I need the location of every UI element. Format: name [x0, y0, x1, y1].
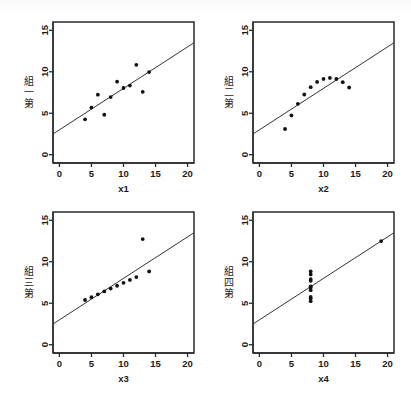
x-tick-label: 0 — [257, 168, 262, 179]
x-axis: 05101520 — [53, 353, 194, 369]
regression-line — [253, 233, 394, 324]
x-tick-label: 20 — [382, 168, 393, 179]
x-axis-title: x4 — [318, 373, 329, 384]
data-point — [122, 86, 126, 90]
data-point — [341, 80, 345, 84]
x-tick-label: 15 — [150, 168, 161, 179]
data-point — [296, 102, 300, 106]
data-points — [83, 237, 151, 302]
data-point — [90, 295, 94, 299]
y-tick-label: 0 — [40, 152, 51, 157]
y-tick-label: 0 — [40, 342, 51, 347]
y-axis-title-char: 第 — [24, 97, 34, 109]
data-point — [334, 77, 338, 81]
data-point — [309, 297, 313, 301]
data-point — [141, 237, 145, 241]
data-point — [290, 113, 294, 117]
x-tick-label: 20 — [182, 358, 193, 369]
y-tick-label: 15 — [240, 24, 251, 35]
x-tick-label: 10 — [318, 358, 329, 369]
plot-frame — [53, 22, 194, 163]
plot-frame — [253, 22, 394, 163]
data-point — [134, 275, 138, 279]
y-axis: 051015 — [240, 212, 254, 353]
data-point — [347, 86, 351, 90]
data-point — [283, 127, 287, 131]
y-tick-label: 15 — [40, 24, 51, 35]
x-axis-title: x1 — [118, 183, 129, 194]
y-axis: 051015 — [40, 22, 54, 163]
data-point — [115, 284, 119, 288]
x-axis: 05101520 — [253, 353, 394, 369]
y-tick-label: 5 — [240, 300, 251, 306]
data-points — [309, 239, 383, 303]
data-point — [315, 80, 319, 84]
data-point — [309, 277, 313, 281]
data-point — [302, 93, 306, 97]
data-point — [122, 281, 126, 285]
x-axis-title: x2 — [318, 183, 329, 194]
y-tick-label: 10 — [40, 66, 51, 77]
plot-frame — [253, 212, 394, 353]
y-axis-title-char: 組 — [24, 75, 34, 87]
data-point — [96, 292, 100, 296]
y-tick-label: 0 — [240, 342, 251, 347]
x-axis-title: x3 — [118, 373, 129, 384]
y-axis-title-char: 四 — [224, 277, 234, 288]
data-point — [147, 269, 151, 273]
data-point — [83, 117, 87, 121]
x-tick-label: 15 — [350, 358, 361, 369]
panel-4: 05101520x4051015第四組 — [224, 212, 394, 384]
x-tick-label: 15 — [350, 168, 361, 179]
data-point — [379, 239, 383, 243]
x-axis: 05101520 — [253, 163, 394, 179]
data-point — [115, 80, 119, 84]
data-point — [96, 93, 100, 97]
y-tick-label: 15 — [40, 214, 51, 225]
data-point — [309, 286, 313, 290]
data-point — [309, 273, 313, 277]
y-axis-title: 第四組 — [224, 265, 234, 299]
y-tick-label: 10 — [40, 256, 51, 267]
data-point — [102, 290, 106, 294]
y-tick-label: 5 — [240, 110, 251, 116]
y-axis-title-char: 第 — [24, 287, 34, 299]
x-tick-label: 15 — [150, 358, 161, 369]
y-axis-title-char: 組 — [224, 75, 234, 87]
y-tick-label: 5 — [40, 110, 51, 116]
y-axis: 051015 — [40, 212, 54, 353]
figure-canvas: 05101520x1051015第一組05101520x2051015第二組05… — [0, 0, 411, 402]
x-tick-label: 10 — [318, 168, 329, 179]
x-tick-label: 0 — [57, 358, 62, 369]
y-axis-title-char: 組 — [224, 265, 234, 277]
anscombe-quartet-figure: 05101520x1051015第一組05101520x2051015第二組05… — [0, 0, 411, 402]
data-point — [109, 95, 113, 99]
y-tick-label: 15 — [240, 214, 251, 225]
data-point — [90, 106, 94, 110]
x-tick-label: 0 — [57, 168, 62, 179]
y-axis-title: 第一組 — [24, 75, 34, 109]
y-tick-label: 0 — [240, 152, 251, 157]
regression-line — [253, 43, 394, 134]
y-axis-title-char: 第 — [224, 287, 234, 299]
y-axis-title-char: 組 — [24, 265, 34, 277]
data-point — [109, 287, 113, 291]
data-point — [128, 84, 132, 88]
data-point — [134, 63, 138, 67]
x-tick-label: 5 — [89, 168, 95, 179]
x-tick-label: 0 — [257, 358, 262, 369]
data-points — [283, 76, 351, 131]
data-point — [102, 113, 106, 117]
data-point — [147, 70, 151, 74]
data-point — [328, 76, 332, 80]
x-tick-label: 10 — [118, 168, 129, 179]
x-tick-label: 10 — [118, 358, 129, 369]
y-tick-label: 5 — [40, 300, 51, 306]
y-axis-title: 第三組 — [24, 265, 34, 299]
x-tick-label: 20 — [382, 358, 393, 369]
data-point — [83, 298, 87, 302]
x-tick-label: 5 — [289, 358, 295, 369]
data-point — [128, 278, 132, 282]
x-tick-label: 5 — [89, 358, 95, 369]
regression-line — [53, 233, 194, 324]
